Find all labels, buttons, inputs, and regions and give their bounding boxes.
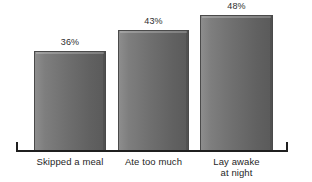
plot-area: 36% 43% 48% Skipped a meal Ate too much … [0,0,312,182]
x-axis-right-tick [286,142,288,152]
bar-lay-awake-at-night [200,15,273,151]
value-label-skipped-a-meal: 36% [34,37,106,47]
bar-ate-too-much [118,30,189,151]
value-label-lay-awake-at-night: 48% [200,1,273,11]
x-axis-line [16,150,288,152]
bar-skipped-a-meal [34,51,106,151]
category-label-lay-awake-at-night: Lay awake at night [181,156,292,178]
bar-chart: 36% 43% 48% Skipped a meal Ate too much … [0,0,312,182]
x-axis-left-tick [16,142,18,152]
value-label-ate-too-much: 43% [118,16,189,26]
